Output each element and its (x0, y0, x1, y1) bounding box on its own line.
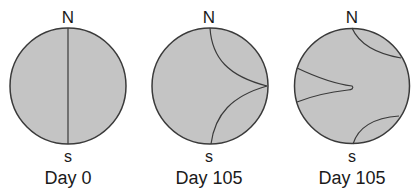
day-label: Day 0 (44, 168, 91, 188)
sphere-day-35 (152, 28, 268, 144)
day-label: Day 105 (175, 168, 242, 188)
north-label: N (203, 8, 215, 27)
south-label: s (348, 148, 356, 165)
panel-day-105: N s Day 105 (295, 8, 410, 188)
panel-day-35: N s Day 105 (152, 8, 268, 188)
south-label: s (205, 148, 213, 165)
south-label: s (64, 148, 72, 165)
panel-day-0: N s Day 0 (10, 8, 126, 188)
day-label: Day 105 (318, 168, 385, 188)
north-label: N (62, 8, 74, 27)
north-label: N (346, 8, 358, 27)
diagram-canvas: N s Day 0 N s Day 105 N s Day 105 (0, 0, 420, 190)
